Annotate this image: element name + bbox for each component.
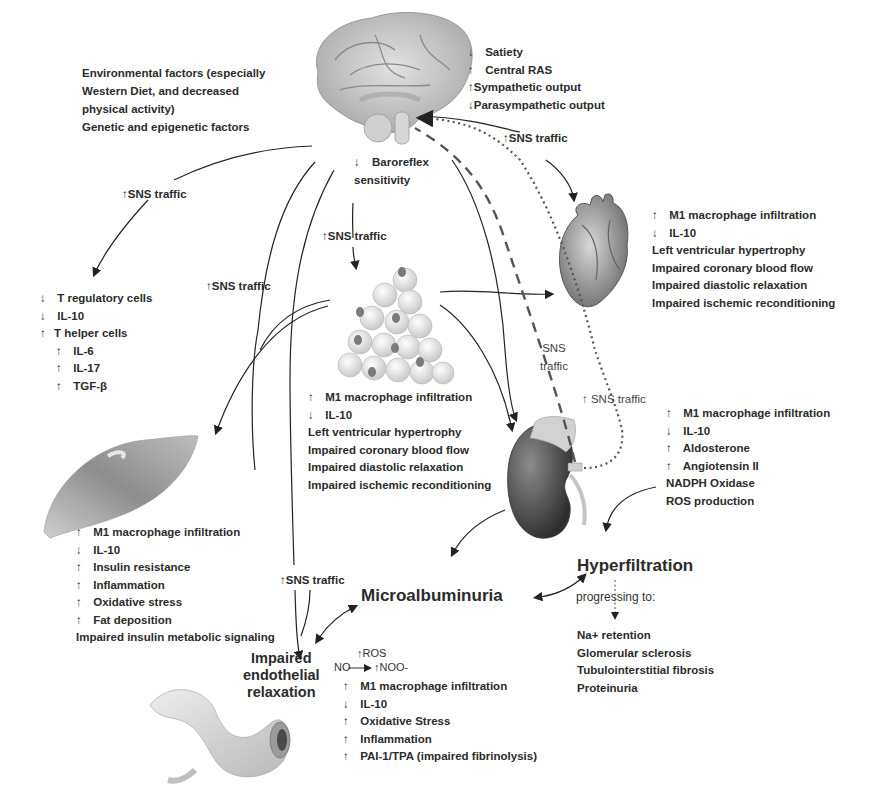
arrow-down-icon: ↓ — [308, 407, 322, 425]
kidney-effect-item: ↑ Aldosterone — [666, 440, 830, 458]
arrow-up-icon: ↑ — [76, 612, 90, 630]
brain-effect-label: Parasympathetic output — [474, 99, 605, 111]
sns-traffic-label-heart: ↑SNS traffic — [503, 130, 568, 148]
arrow-up-icon: ↑ — [468, 62, 482, 80]
arrow-up-icon: ↑ — [76, 577, 90, 595]
muscle-effect-item: ↑ Inflammation — [76, 577, 275, 595]
arrow-down-icon: ↓ — [40, 290, 54, 308]
muscle-effect-item: ↑ Fat deposition — [76, 612, 275, 630]
progressing-label: progressing to: — [576, 590, 655, 604]
product-label: NOO- — [380, 661, 409, 673]
arrow-up-icon: ↑ — [666, 405, 680, 423]
reaction-catalyst: ↑ROS — [357, 647, 386, 659]
vessel-effect-item: ↑ Oxidative Stress — [343, 713, 537, 731]
baroreflex-label-2: sensitivity — [354, 172, 429, 190]
muscle-effect-label: M1 macrophage infiltration — [93, 526, 240, 538]
arrow-down-icon: ↓ — [354, 154, 372, 172]
heart-effect-label: M1 macrophage infiltration — [669, 209, 816, 221]
catalyst-label: ROS — [363, 647, 387, 659]
vessel-title-line: relaxation — [243, 684, 320, 701]
immune-effect-item: ↓ T regulatory cells — [40, 290, 152, 308]
kidney-effect-label: M1 macrophage infiltration — [683, 407, 830, 419]
immune-effect-item: ↓ IL-10 — [40, 308, 152, 326]
muscle-effect-item: Impaired insulin metabolic signaling — [76, 629, 275, 647]
heart-effect-item: Impaired diastolic relaxation — [652, 277, 835, 295]
heart-illustration — [560, 194, 628, 307]
arrow-up-icon: ↑ — [76, 594, 90, 612]
vessel-effect-item: ↓ IL-10 — [343, 696, 537, 714]
kidney-effect-item: ROS production — [666, 493, 830, 511]
immune-effect-label: TGF-β — [73, 380, 107, 392]
vessel-effects-list: ↑ M1 macrophage infiltration ↓ IL-10 ↑ O… — [343, 678, 537, 766]
arrow-up-icon: ↑ — [652, 207, 666, 225]
immune-effect-item: ↑ IL-17 — [40, 360, 152, 378]
vessel-title-line: Impaired — [243, 650, 320, 667]
heart-effect-item: ↑ M1 macrophage infiltration — [652, 207, 835, 225]
brain-illustration — [317, 12, 473, 144]
muscle-effect-label: IL-10 — [93, 544, 120, 556]
environment-line: Genetic and epigenetic factors — [82, 118, 265, 136]
heart-effect-item: Left ventricular hypertrophy — [652, 242, 835, 260]
vessel-effect-label: IL-10 — [360, 698, 387, 710]
brain-effect-item: ↑Sympathetic output — [468, 79, 605, 97]
adipose-effect-label: IL-10 — [325, 409, 352, 421]
vessel-effect-label: Oxidative Stress — [360, 715, 450, 727]
arrow-up-icon: ↑ — [56, 343, 70, 361]
immune-effect-label: IL-10 — [57, 310, 84, 322]
heart-effect-item: Impaired ischemic reconditioning — [652, 295, 835, 313]
vessel-effect-label: Inflammation — [360, 733, 432, 745]
muscle-effect-label: Oxidative stress — [93, 596, 182, 608]
environment-line: Western Diet, and decreased — [82, 82, 265, 100]
arrow-up-icon: ↑ — [76, 559, 90, 577]
immune-effect-label: IL-17 — [73, 362, 100, 374]
brain-effect-label: Central RAS — [482, 64, 552, 76]
immune-effect-item: ↑ TGF-β — [40, 378, 152, 396]
muscle-effects-list: ↑ M1 macrophage infiltration ↓ IL-10 ↑ I… — [76, 524, 275, 647]
heart-effect-item: ↓ IL-10 — [652, 225, 835, 243]
immune-effect-item: ↑T helper cells — [40, 325, 152, 343]
arrow-up-icon: ↑ — [343, 748, 357, 766]
environment-line: Environmental factors (especially — [82, 64, 265, 82]
kidney-effect-label: Angiotensin II — [683, 460, 759, 472]
brain-effect-item: ↓ Satiety — [468, 44, 605, 62]
progression-item: Na+ retention — [577, 627, 714, 645]
immune-effect-item: ↑ IL-6 — [40, 343, 152, 361]
muscle-effect-item: ↑ Insulin resistance — [76, 559, 275, 577]
muscle-effect-item: ↑ M1 macrophage infiltration — [76, 524, 275, 542]
vessel-effect-item: ↑ PAI-1/TPA (impaired fibrinolysis) — [343, 748, 537, 766]
kidney-illustration — [508, 417, 585, 539]
adipose-tissue-illustration — [338, 267, 454, 384]
adipose-effects-list: ↑ M1 macrophage infiltration ↓ IL-10 Lef… — [308, 389, 491, 494]
kidney-effect-item: ↓ IL-10 — [666, 423, 830, 441]
brain-effect-label: Satiety — [482, 46, 523, 58]
progression-list: Na+ retention Glomerular sclerosis Tubul… — [577, 627, 714, 697]
sns-traffic-label-adipose: ↑SNS traffic — [322, 228, 387, 246]
baroreflex-note: ↓Baroreflex sensitivity — [354, 154, 429, 189]
muscle-effect-label: Inflammation — [93, 579, 165, 591]
arrow-down-icon: ↓ — [343, 696, 357, 714]
arrow-down-icon: ↓ — [652, 225, 666, 243]
kidney-effect-label: Aldosterone — [683, 442, 750, 454]
muscle-effect-item: ↑ Oxidative stress — [76, 594, 275, 612]
heart-effect-item: Impaired coronary blood flow — [652, 260, 835, 278]
sns-traffic-label-muscle: ↑SNS traffic — [206, 278, 271, 296]
microalbuminuria-title: Microalbuminuria — [361, 586, 503, 606]
adipose-effect-item: Impaired diastolic relaxation — [308, 459, 491, 477]
kidney-effect-item: ↑ Angiotensin II — [666, 458, 830, 476]
kidney-effect-label: IL-10 — [683, 425, 710, 437]
immune-effect-label: T regulatory cells — [57, 292, 152, 304]
baroreflex-label: Baroreflex — [372, 156, 429, 168]
adipose-effect-item: Impaired ischemic reconditioning — [308, 477, 491, 495]
environment-line: physical activity) — [82, 100, 265, 118]
kidney-effect-item: NADPH Oxidase — [666, 475, 830, 493]
progression-item: Tubulointerstitial fibrosis — [577, 662, 714, 680]
arrow-up-icon: ↑ — [40, 325, 54, 343]
brain-effect-item: ↑ Central RAS — [468, 62, 605, 80]
arrow-up-icon: ↑ — [666, 458, 680, 476]
progression-item: Proteinuria — [577, 680, 714, 698]
vessel-effect-label: M1 macrophage infiltration — [360, 680, 507, 692]
adipose-effect-item: ↓ IL-10 — [308, 407, 491, 425]
heart-effects-list: ↑ M1 macrophage infiltration ↓ IL-10 Lef… — [652, 207, 835, 312]
arrow-up-icon: ↑ — [308, 389, 322, 407]
reaction-reactant: NO — [334, 661, 351, 673]
